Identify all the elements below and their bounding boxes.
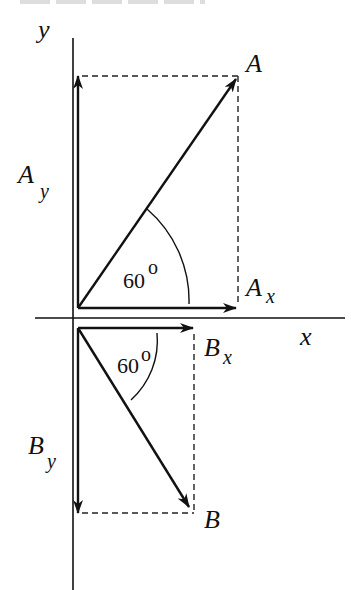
vector-diagram: y x A A y A x 60 o <box>0 0 356 590</box>
vector-b-group: B B x B y 60 o <box>28 328 232 534</box>
ax-label: A <box>244 273 262 302</box>
vector-a-group: A A y A x 60 o <box>16 49 275 308</box>
by-label: B <box>28 431 44 460</box>
ay-label: A <box>16 160 34 189</box>
y-axis-label: y <box>35 15 50 44</box>
bx-label-subscript: x <box>222 346 232 368</box>
angle-b-degree: o <box>141 343 151 365</box>
bx-label: B <box>204 333 220 362</box>
vector-a-label: A <box>244 49 262 78</box>
vector-b-label: B <box>204 505 220 534</box>
ay-label-subscript: y <box>38 180 49 203</box>
angle-a-value: 60 <box>123 268 145 293</box>
x-axis-label: x <box>299 322 312 351</box>
by-label-subscript: y <box>45 450 56 473</box>
angle-b-value: 60 <box>117 353 139 378</box>
ax-label-subscript: x <box>265 285 275 307</box>
angle-a-degree: o <box>148 256 158 278</box>
